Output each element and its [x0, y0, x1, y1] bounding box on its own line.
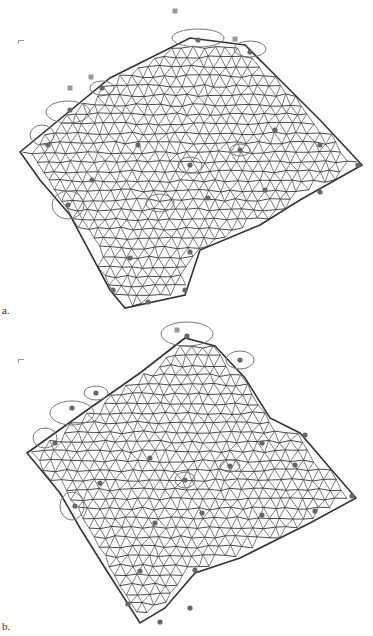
landmark-marker	[355, 162, 360, 167]
mesh-diagram-a	[0, 0, 373, 320]
landmark-marker	[67, 107, 72, 112]
uncertainty-ellipse	[60, 492, 84, 520]
landmark-marker	[52, 440, 57, 445]
landmark-marker	[65, 202, 70, 207]
landmark-marker	[272, 127, 277, 132]
mesh-edges	[22, 46, 356, 306]
landmark-marker	[195, 37, 200, 42]
landmark-marker	[349, 493, 354, 498]
landmark-marker	[135, 142, 140, 147]
figure-panel-a: a.	[0, 0, 373, 320]
landmark-marker	[69, 405, 74, 410]
landmark-marker	[247, 49, 252, 54]
landmark-marker	[237, 357, 242, 362]
landmark-marker	[192, 567, 197, 572]
landmark-marker	[99, 85, 104, 90]
landmark-marker	[317, 189, 322, 194]
landmark-marker	[110, 287, 115, 292]
landmark-marker	[147, 455, 152, 460]
landmark-marker	[317, 142, 322, 147]
mesh-diagram-b	[0, 318, 373, 636]
landmark-marker	[157, 619, 162, 624]
landmark-marker	[137, 568, 142, 573]
landmark-marker	[259, 440, 264, 445]
panel-label-b: b.	[2, 620, 10, 632]
mesh-edges	[32, 346, 348, 613]
landmark-marker	[205, 195, 210, 200]
landmark-marker	[127, 255, 132, 260]
landmark-marker	[227, 463, 232, 468]
landmark-square	[68, 86, 73, 91]
landmark-marker	[93, 390, 98, 395]
panel-label-a: a.	[2, 304, 10, 316]
landmark-square	[233, 37, 238, 42]
landmark-marker	[182, 477, 187, 482]
figure-panel-b: b.	[0, 318, 373, 636]
landmark-marker	[292, 462, 297, 467]
landmark-square	[175, 328, 180, 333]
landmark-marker	[237, 147, 242, 152]
landmark-square	[89, 75, 94, 80]
landmark-marker	[152, 520, 157, 525]
landmark-marker	[184, 333, 189, 338]
landmark-marker	[187, 162, 192, 167]
landmark-marker	[187, 605, 192, 610]
uncertainty-ellipse	[30, 125, 54, 145]
landmark-marker	[302, 432, 307, 437]
landmark-marker	[262, 187, 267, 192]
landmark-marker	[125, 601, 130, 606]
landmark-marker	[45, 142, 50, 147]
landmark-marker	[97, 480, 102, 485]
landmark-marker	[145, 299, 150, 304]
landmark-marker	[199, 510, 204, 515]
landmark-marker	[72, 503, 77, 508]
landmark-marker	[259, 512, 264, 517]
landmark-marker	[89, 177, 94, 182]
landmark-marker	[182, 287, 187, 292]
landmark-marker	[312, 508, 317, 513]
landmark-square	[173, 9, 178, 14]
landmark-marker	[187, 249, 192, 254]
